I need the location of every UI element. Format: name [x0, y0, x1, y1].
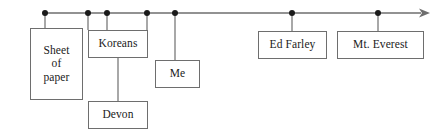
- node-box-devon[interactable]: Devon: [88, 101, 148, 129]
- node-box-koreans[interactable]: Koreans: [88, 30, 148, 58]
- marker-ed-farley[interactable]: [289, 10, 295, 16]
- marker-koreans-right[interactable]: [144, 10, 150, 16]
- marker-mt-everest[interactable]: [375, 10, 381, 16]
- node-label-sheet-of-paper: Sheet of paper: [41, 44, 71, 85]
- node-label-devon: Devon: [100, 108, 135, 122]
- node-box-sheet-of-paper[interactable]: Sheet of paper: [30, 28, 83, 100]
- node-label-mt-everest: Mt. Everest: [351, 38, 410, 52]
- node-label-koreans: Koreans: [96, 37, 139, 51]
- marker-koreans-mid[interactable]: [104, 10, 110, 16]
- marker-me[interactable]: [172, 10, 178, 16]
- node-box-me[interactable]: Me: [155, 60, 200, 88]
- marker-sheet-of-paper[interactable]: [42, 10, 48, 16]
- node-box-ed-farley[interactable]: Ed Farley: [258, 31, 327, 59]
- timeline-axis: [45, 9, 430, 18]
- marker-koreans-left[interactable]: [85, 10, 91, 16]
- node-box-mt-everest[interactable]: Mt. Everest: [337, 31, 424, 59]
- node-label-me: Me: [168, 67, 188, 81]
- timeline-diagram: Sheet of paperKoreansDevonMeEd FarleyMt.…: [0, 0, 444, 132]
- node-label-ed-farley: Ed Farley: [268, 38, 318, 52]
